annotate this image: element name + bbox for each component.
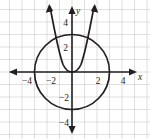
x-tick-label-neg2: −2 — [46, 76, 56, 86]
x-axis-right-arrow-icon — [129, 68, 137, 75]
y-tick-label-neg4: −4 — [59, 118, 69, 128]
coordinate-plane-svg: −4 −2 2 4 4 2 −2 −4 x y — [0, 0, 150, 139]
x-axis-left-arrow-icon — [9, 68, 17, 75]
y-axis-label: y — [75, 6, 81, 16]
x-axis-label: x — [137, 72, 143, 82]
y-tick-label-neg2: −2 — [59, 93, 69, 103]
axes — [9, 6, 137, 134]
x-tick-label-neg4: −4 — [22, 76, 32, 86]
y-axis-top-arrow-icon — [68, 6, 75, 14]
y-tick-label-pos2: 2 — [63, 43, 68, 53]
graph-figure: −4 −2 2 4 4 2 −2 −4 x y — [0, 0, 150, 139]
grid-lines — [0, 0, 150, 139]
x-tick-label-pos2: 2 — [96, 76, 101, 86]
x-tick-label-pos4: 4 — [121, 76, 126, 86]
y-axis-bottom-arrow-icon — [68, 126, 75, 134]
y-tick-label-pos4: 4 — [63, 18, 68, 28]
